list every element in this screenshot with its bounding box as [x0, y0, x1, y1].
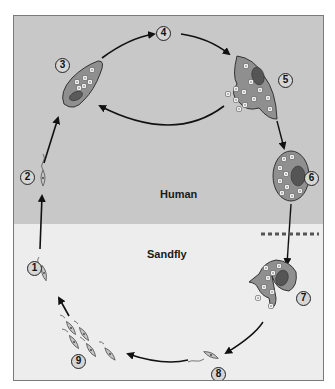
promastigote-stage-8	[188, 350, 219, 362]
human-label: Human	[160, 188, 197, 200]
arrow-5-to-6	[277, 121, 284, 148]
stage-number-5: 5	[278, 73, 293, 88]
arrow-2-to-3	[44, 118, 58, 163]
promastigote-stage-2	[41, 154, 45, 186]
stage-number-3: 3	[55, 58, 70, 73]
lifecycle-diagram: Human Sandfly 1 2 3 4 5 6 7 8 9	[13, 15, 324, 381]
macrophage-stage-5	[226, 56, 278, 119]
stage-number-4: 4	[156, 26, 171, 41]
arrow-4-to-5	[181, 34, 229, 54]
stage-number-7: 7	[296, 291, 311, 306]
arrow-7-to-8	[226, 322, 263, 353]
promastigotes-stage-9	[60, 315, 117, 361]
stage-number-2: 2	[20, 170, 35, 185]
arrow-1-to-2	[40, 196, 42, 249]
arrow-8-to-9	[128, 354, 188, 362]
stage-number-6: 6	[304, 171, 319, 186]
arrow-3-to-4	[102, 34, 154, 58]
sandfly-label: Sandfly	[147, 248, 187, 260]
arrow-9-to-1	[59, 298, 69, 316]
macrophage-stage-7	[249, 260, 296, 309]
stage-number-8: 8	[211, 367, 226, 381]
arrow-5-to-3	[100, 106, 224, 125]
stage-number-9: 9	[71, 354, 86, 369]
stage-number-1: 1	[27, 261, 42, 276]
